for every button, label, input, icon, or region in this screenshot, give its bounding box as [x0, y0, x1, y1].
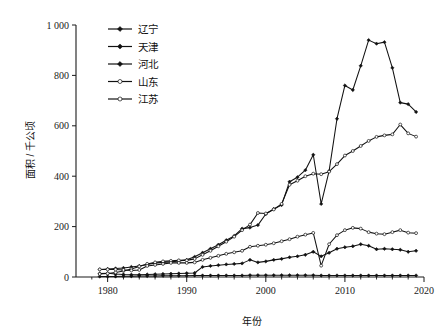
data-point [217, 254, 220, 257]
x-axis-tick-label: 2000 [256, 285, 276, 296]
data-point [351, 245, 354, 248]
data-point [336, 163, 339, 166]
y-axis-title: 面积 / 千公顷 [25, 121, 36, 179]
data-point [162, 262, 165, 265]
data-point [296, 235, 299, 238]
x-axis-tick-label: 2010 [335, 285, 355, 296]
data-point [225, 263, 228, 266]
data-point [248, 226, 251, 229]
data-point [304, 253, 307, 256]
data-point [248, 258, 251, 261]
y-axis-tick-label: 800 [54, 70, 69, 81]
data-point [138, 268, 141, 271]
data-point [154, 263, 157, 266]
data-point [359, 243, 362, 246]
series-1 [98, 38, 418, 271]
data-point [399, 101, 402, 104]
legend-label: 山东 [138, 76, 158, 88]
data-point [414, 249, 417, 252]
data-point [256, 274, 259, 277]
data-point [106, 275, 109, 278]
data-point [406, 250, 409, 253]
data-point [399, 123, 402, 126]
axes-group: 02004006008001 00019801990200020102020 [47, 20, 435, 297]
data-point [233, 235, 236, 238]
legend-marker-icon [118, 80, 122, 84]
data-point [391, 231, 394, 234]
legend-label: 天津 [138, 41, 159, 53]
data-point [335, 117, 338, 120]
data-point [264, 212, 267, 215]
data-point [232, 262, 235, 265]
data-point [415, 232, 418, 235]
data-point [185, 261, 188, 264]
legend-item-2[interactable]: 天津 [108, 41, 159, 53]
data-point [391, 133, 394, 136]
data-point [280, 274, 283, 277]
series-line [100, 125, 416, 274]
y-axis-tick-label: 400 [54, 171, 69, 182]
data-point [201, 258, 204, 261]
data-point [367, 38, 370, 41]
data-point [106, 272, 109, 275]
data-point [304, 233, 307, 236]
data-point [185, 272, 188, 275]
data-point [383, 233, 386, 236]
data-point [312, 231, 315, 234]
data-point [320, 264, 323, 267]
data-point [391, 248, 394, 251]
data-point [122, 268, 125, 271]
legend-label: 河北 [138, 58, 159, 70]
legend-item-4[interactable]: 山东 [108, 76, 158, 88]
y-axis-tick-label: 600 [54, 120, 69, 131]
line-chart: 面积 / 千公顷 年份 02004006008001 0001980199020… [0, 0, 443, 336]
y-axis-title-text: 面积 / 千公顷 [25, 121, 36, 179]
data-point [264, 274, 267, 277]
data-point [391, 66, 394, 69]
data-point [249, 245, 252, 248]
legend-marker-icon [117, 44, 122, 49]
data-point [343, 246, 346, 249]
series-3 [98, 243, 418, 277]
data-point [264, 243, 267, 246]
data-point [351, 226, 354, 229]
data-point [241, 229, 244, 232]
data-point [375, 232, 378, 235]
legend-marker-icon [117, 26, 122, 31]
data-point [280, 257, 283, 260]
data-point [241, 249, 244, 252]
data-point [114, 268, 117, 271]
y-axis-tick-label: 1 000 [47, 20, 70, 31]
data-point [296, 274, 299, 277]
data-point [288, 274, 291, 277]
data-point [256, 212, 259, 215]
data-point [240, 262, 243, 265]
legend-item-1[interactable]: 辽宁 [108, 23, 158, 35]
legend-marker-icon [118, 97, 122, 101]
data-point [193, 257, 196, 260]
data-point [98, 273, 101, 276]
data-point [304, 274, 307, 277]
legend-group: 辽宁天津河北山东江苏 [108, 23, 159, 105]
data-point [177, 261, 180, 264]
series-line [100, 244, 416, 274]
chart-figure: 面积 / 千公顷 年份 02004006008001 0001980199020… [0, 0, 443, 336]
data-point [272, 208, 275, 211]
data-point [375, 248, 378, 251]
data-point [217, 245, 220, 248]
data-point [272, 242, 275, 245]
data-point [288, 183, 291, 186]
data-point [272, 274, 275, 277]
data-point [209, 249, 212, 252]
data-point [328, 170, 331, 173]
data-point [249, 223, 252, 226]
legend-marker-icon [117, 61, 122, 66]
data-point [359, 145, 362, 148]
legend-label: 辽宁 [138, 23, 158, 35]
legend-item-5[interactable]: 江苏 [108, 93, 158, 105]
legend-item-3[interactable]: 河北 [108, 58, 159, 70]
data-point [399, 248, 402, 251]
data-point [359, 227, 362, 230]
y-axis-tick-label: 200 [54, 221, 69, 232]
x-axis-tick-label: 1990 [177, 285, 197, 296]
